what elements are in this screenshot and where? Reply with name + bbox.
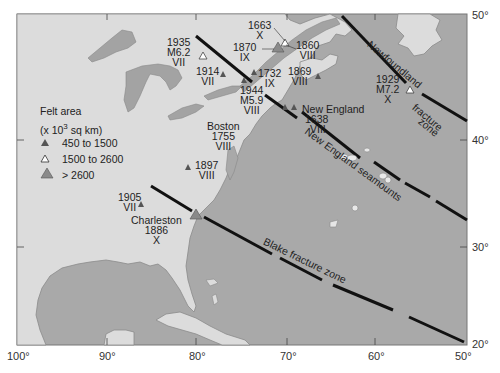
legend-units: (x 103 sq km): [40, 119, 123, 135]
label-1870: 1870IX: [233, 42, 256, 62]
label-1905: 1905VII: [118, 192, 141, 212]
lon-label-100: 100°: [7, 350, 30, 362]
legend-item-large: > 2600: [40, 167, 123, 183]
label-1929: 1929M7.2X: [376, 74, 399, 104]
lon-label-70: 70°: [280, 350, 297, 362]
label-boston-1755: Boston1755VIII: [207, 121, 240, 151]
label-1860: 1860VIII: [296, 40, 319, 60]
legend: Felt area (x 103 sq km) 450 to 1500 1500…: [40, 103, 123, 183]
lon-label-50: 50°: [455, 350, 472, 362]
open-triangle-icon: [40, 154, 50, 163]
legend-item-medium: 1500 to 2600: [40, 151, 123, 167]
large-gray-triangle-icon: [40, 167, 54, 179]
label-1869: 1869VIII: [288, 66, 311, 86]
legend-item-small: 450 to 1500: [40, 135, 123, 151]
label-1663: 1663X: [248, 20, 271, 40]
lon-label-90: 90°: [99, 350, 116, 362]
lat-label-40: 40°: [472, 134, 489, 146]
legend-title: Felt area: [40, 103, 123, 119]
label-1914: 1914VII: [196, 66, 219, 86]
label-1935: 1935M6.2VII: [167, 37, 190, 67]
label-charleston-1886: Charleston1886X: [131, 215, 182, 245]
small-filled-triangle-icon: [40, 138, 50, 147]
lat-label-50: 50°: [472, 9, 489, 21]
lat-label-20: 20°: [472, 338, 489, 350]
label-1897: 1897VIII: [195, 160, 218, 180]
lon-label-60: 60°: [368, 350, 385, 362]
lon-label-80: 80°: [189, 350, 206, 362]
lat-label-30: 30°: [472, 241, 489, 253]
label-1944: 1944M5.9VIII: [240, 85, 263, 115]
